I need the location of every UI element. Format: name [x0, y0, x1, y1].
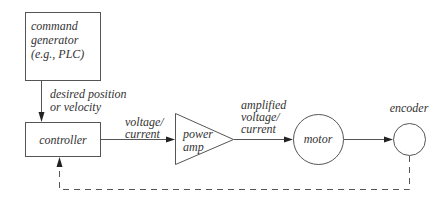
- edge-cmd-to-controller: desired position or velocity: [39, 81, 127, 122]
- encoder-label: encoder: [390, 101, 429, 115]
- command-generator-label-line1: command: [31, 19, 79, 33]
- desired-position-label-line2: or velocity: [50, 100, 102, 114]
- motor-block: motor: [294, 115, 344, 165]
- encoder-block: encoder: [390, 101, 429, 156]
- servo-block-diagram: command generator (e.g., PLC) desired po…: [0, 0, 446, 201]
- arrowhead-right-icon: [284, 137, 293, 143]
- encoder-circle: [394, 124, 426, 156]
- power-amp-label-line2: amp: [183, 140, 204, 154]
- arrowhead-up-icon: [57, 157, 63, 167]
- power-amp-label-line1: power: [182, 127, 213, 141]
- arrowhead-down-icon: [39, 112, 45, 122]
- command-generator-block: command generator (e.g., PLC): [26, 13, 101, 81]
- controller-label: controller: [39, 133, 87, 147]
- voltage-current-label-line2: current: [125, 127, 161, 141]
- power-amp-block: power amp: [176, 114, 234, 165]
- amplified-label-line3: current: [241, 122, 277, 136]
- edge-controller-to-amp: voltage/ current: [101, 115, 175, 143]
- desired-position-label-line1: desired position: [50, 87, 127, 101]
- motor-label: motor: [304, 132, 333, 146]
- edge-amp-to-motor: amplified voltage/ current: [234, 98, 293, 143]
- controller-block: controller: [26, 123, 101, 157]
- edge-feedback-encoder-to-controller: [57, 156, 410, 190]
- command-generator-label-line3: (e.g., PLC): [31, 47, 84, 61]
- edge-motor-to-encoder: [344, 137, 393, 143]
- arrowhead-right-icon: [384, 137, 393, 143]
- feedback-dashed-line: [60, 156, 410, 190]
- arrowhead-right-icon: [166, 137, 175, 143]
- command-generator-label-line2: generator: [31, 33, 79, 47]
